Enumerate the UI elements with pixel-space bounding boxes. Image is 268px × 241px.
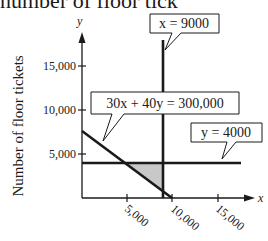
ytick-label-5000: 5,000 [49, 147, 76, 161]
xtick-label-5000: 5,000 [122, 202, 152, 230]
x-axis-arrow-icon [244, 195, 255, 202]
callout-x-9000: x = 9000 [150, 14, 219, 50]
ytick-label-15000: 15,000 [43, 59, 76, 73]
ytick-label-10000: 10,000 [43, 103, 76, 117]
y-axis-symbol: y [76, 14, 83, 28]
callout-x-9000-text: x = 9000 [159, 16, 209, 31]
x-axis-symbol: x [257, 191, 264, 205]
chart-canvas: y x 15,000 10,000 5,000 5,000 10,000 15,… [0, 0, 268, 241]
xtick-label-10000: 10,000 [168, 202, 202, 234]
callout-y-4000-text: y = 4000 [201, 125, 251, 140]
callout-constraint-text: 30x + 40y = 300,000 [106, 96, 223, 111]
y-axis-arrow-icon [79, 32, 86, 43]
xtick-label-15000: 15,000 [213, 202, 247, 234]
callout-y-4000: y = 4000 [191, 123, 262, 159]
